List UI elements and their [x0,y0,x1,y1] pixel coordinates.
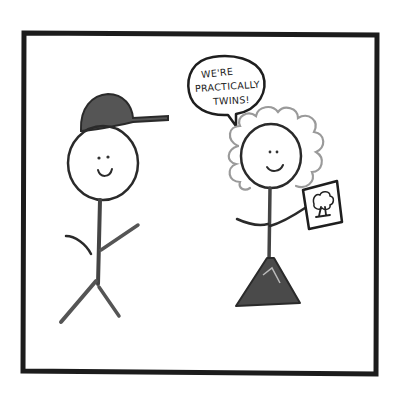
head [241,124,301,188]
comic-panel: WE'RE PRACTICALLY TWINS! [0,0,401,403]
eye [97,156,100,159]
arm [237,219,268,225]
arm [66,236,91,254]
cap-icon [81,94,168,131]
left-figure [61,94,168,322]
head [68,126,138,200]
eye [269,151,272,154]
body [98,200,100,284]
leg [99,287,119,316]
tree-sign [303,181,342,229]
arm [101,225,138,250]
smile [98,169,112,176]
bubble-line-3: TWINS! [212,94,250,107]
speech-bubble: WE'RE PRACTICALLY TWINS! [188,56,264,126]
triangle-dress [236,258,300,306]
eye [106,155,109,158]
eye [276,151,279,154]
arm [270,208,305,226]
leg [61,281,96,322]
smile [267,165,283,171]
